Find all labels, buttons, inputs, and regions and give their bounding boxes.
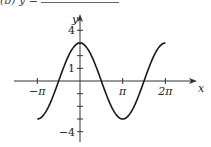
- y-axis-label: y: [71, 13, 79, 26]
- axes: [14, 14, 197, 142]
- y-tick-label: 4: [68, 24, 75, 37]
- x-tick-label: π: [118, 85, 127, 98]
- x-axis-label: x: [198, 82, 205, 95]
- function-plot: −ππ2π 41−4 x y: [0, 0, 211, 147]
- y-tick-label: −4: [59, 126, 75, 139]
- y-tick-label: 1: [68, 62, 75, 75]
- x-tick-label: −π: [29, 85, 46, 98]
- x-tick-label: 2π: [157, 85, 173, 98]
